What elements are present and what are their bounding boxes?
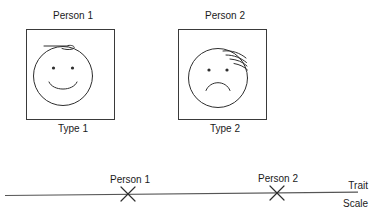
type-box-2-person-label: Person 2 bbox=[180, 10, 270, 22]
smiling-face-drawing bbox=[26, 24, 115, 120]
type-box-1-type-label: Type 1 bbox=[28, 123, 118, 135]
axis-line bbox=[5, 192, 358, 195]
axis-label-trait: Trait bbox=[296, 180, 372, 192]
right-eye bbox=[71, 66, 74, 69]
axis-label-scale: Scale bbox=[296, 198, 372, 210]
frowning-mouth bbox=[206, 83, 230, 91]
left-eye bbox=[52, 66, 55, 69]
type-box-2-type-label: Type 2 bbox=[180, 123, 270, 135]
smiling-mouth bbox=[49, 82, 77, 89]
type-box-1-person-label: Person 1 bbox=[28, 10, 118, 22]
left-eye bbox=[207, 68, 210, 71]
right-eye bbox=[225, 68, 228, 71]
face-outline bbox=[34, 47, 93, 106]
trait-scale-figure: Person 1 Type 1 Person 2 Type 2 bbox=[0, 0, 374, 223]
frowning-face-drawing bbox=[178, 24, 267, 120]
